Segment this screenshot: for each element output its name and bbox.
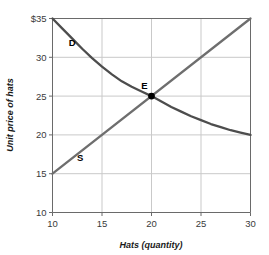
x-tick-label: 20	[146, 218, 157, 229]
y-tick-label: $35	[31, 13, 47, 24]
x-tick-label: 25	[196, 218, 207, 229]
x-tick-label: 30	[245, 218, 256, 229]
y-tick-label: 20	[36, 129, 47, 140]
curve-label-s: S	[77, 152, 83, 163]
x-tick-label: 10	[47, 218, 58, 229]
equilibrium-label: E	[141, 80, 147, 91]
y-tick-label: 25	[36, 91, 47, 102]
x-axis-title: Hats (quantity)	[120, 240, 183, 250]
x-tick-label: 15	[97, 218, 108, 229]
y-tick-label: 10	[36, 207, 47, 218]
curve-label-d: D	[69, 37, 76, 48]
supply-demand-chart: 1015202530$35 1015202530 DS E Unit price…	[0, 0, 269, 255]
chart-container: 1015202530$35 1015202530 DS E Unit price…	[0, 0, 269, 255]
equilibrium-point-marker	[148, 93, 155, 100]
y-axis-title: Unit price of hats	[5, 78, 15, 152]
y-tick-label: 15	[36, 168, 47, 179]
y-tick-label: 30	[36, 52, 47, 63]
